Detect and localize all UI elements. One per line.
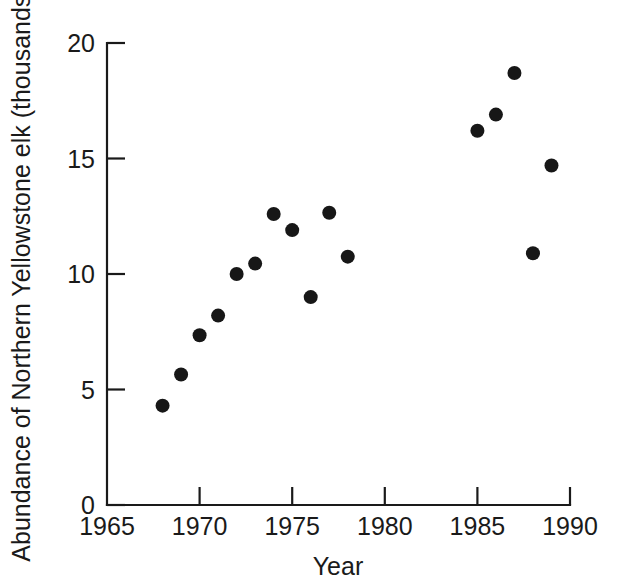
- data-point: [193, 328, 207, 342]
- data-point: [248, 257, 262, 271]
- data-point: [304, 290, 318, 304]
- data-points-group: [156, 66, 559, 413]
- x-axis-title: Year: [313, 552, 364, 580]
- x-tick-label-1975: 1975: [264, 512, 320, 540]
- data-point: [507, 66, 521, 80]
- x-tick-label-1990: 1990: [542, 512, 598, 540]
- data-point: [526, 246, 540, 260]
- x-tick-label-1965: 1965: [79, 512, 135, 540]
- data-point: [285, 223, 299, 237]
- x-tick-label-group: 196519701975198019851990: [79, 512, 598, 540]
- y-tick-label-group: 05101520: [67, 29, 95, 519]
- data-point: [470, 124, 484, 138]
- data-point: [322, 206, 336, 220]
- data-point: [230, 267, 244, 281]
- y-tick-label-5: 5: [81, 376, 95, 404]
- data-point: [267, 207, 281, 221]
- data-point: [544, 158, 558, 172]
- data-point: [489, 108, 503, 122]
- y-tick-label-10: 10: [67, 260, 95, 288]
- y-tick-group: [107, 159, 125, 506]
- y-tick-label-20: 20: [67, 29, 95, 57]
- y-tick-label-15: 15: [67, 145, 95, 173]
- data-point: [156, 399, 170, 413]
- x-tick-group: [200, 487, 478, 505]
- data-point: [174, 367, 188, 381]
- x-tick-label-1970: 1970: [172, 512, 228, 540]
- y-axis-title: Abundance of Northern Yellowstone elk (t…: [7, 0, 35, 562]
- scatter-chart: 05101520 196519701975198019851990 Year A…: [0, 0, 622, 588]
- x-tick-label-1985: 1985: [450, 512, 506, 540]
- plot-area: 05101520 196519701975198019851990 Year A…: [0, 0, 622, 588]
- x-tick-label-1980: 1980: [357, 512, 413, 540]
- data-point: [341, 250, 355, 264]
- data-point: [211, 309, 225, 323]
